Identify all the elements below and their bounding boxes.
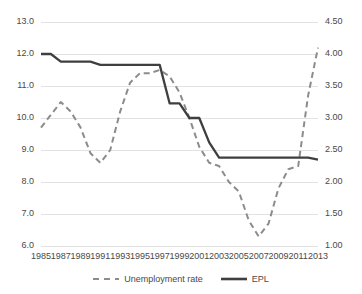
- series-lines: [41, 48, 318, 237]
- plot-area: [0, 0, 362, 294]
- legend-swatch-solid-line-icon: [221, 275, 247, 283]
- series-line-epl: [41, 54, 318, 160]
- legend-label: Unemployment rate: [124, 274, 203, 284]
- legend-label: EPL: [252, 274, 269, 284]
- chart-legend: Unemployment rateEPL: [0, 268, 362, 290]
- legend-item[interactable]: EPL: [221, 274, 269, 284]
- series-line-unemployment-rate: [41, 48, 318, 237]
- legend-item[interactable]: Unemployment rate: [93, 274, 203, 284]
- legend-swatch-dashed-line-icon: [93, 275, 119, 283]
- chart-container: 6.07.08.09.010.011.012.013.0 1.001.502.0…: [0, 0, 362, 294]
